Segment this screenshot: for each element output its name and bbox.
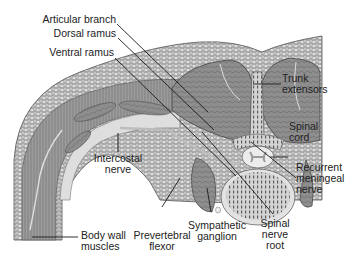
- label-trunk-extensors-line2: extensors: [282, 84, 328, 95]
- label-ventral-ramus: Ventral ramus: [40, 47, 114, 58]
- label-body-wall-muscles: Body wall muscles: [81, 230, 126, 252]
- label-spinal-nerve-root: Spinal nerve root: [256, 218, 294, 251]
- sympathetic-ganglion-shape: [216, 207, 221, 213]
- label-sympathetic-line2: ganglion: [186, 231, 248, 242]
- label-intercostal-nerve: Intercostal nerve: [90, 153, 146, 175]
- label-spinal-cord-line2: cord: [289, 132, 318, 143]
- label-recurrent-meningeal-nerve: Recurrent meningeal nerve: [296, 162, 344, 195]
- label-trunk-extensors: Trunk extensors: [282, 73, 328, 95]
- label-dorsal-ramus: Dorsal ramus: [44, 28, 116, 39]
- label-sympathetic-ganglion: Sympathetic ganglion: [186, 220, 248, 242]
- label-articular-branch: Articular branch: [34, 14, 116, 25]
- anatomy-diagram: Articular branch Dorsal ramus Ventral ra…: [0, 0, 351, 262]
- label-intercostal-nerve-line2: nerve: [90, 164, 146, 175]
- label-body-wall-line2: muscles: [81, 241, 126, 252]
- label-recurrent-meningeal-line3: nerve: [296, 184, 344, 195]
- label-spinal-root-line3: root: [256, 240, 294, 251]
- label-spinal-cord: Spinal cord: [289, 121, 318, 143]
- label-prevertebral-line2: flexor: [128, 241, 196, 252]
